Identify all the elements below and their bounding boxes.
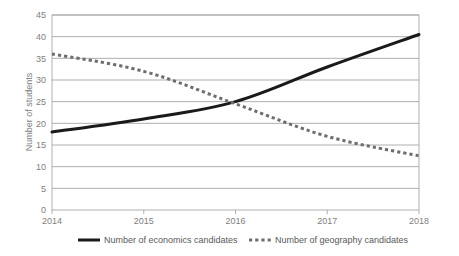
y-tick-label-45: 45 (36, 10, 46, 20)
legend-label-economics: Number of economics candidates (104, 235, 238, 245)
y-tick-label-0: 0 (41, 205, 46, 215)
x-tick-label-2017: 2017 (317, 216, 337, 226)
x-tick-label-2014: 2014 (42, 216, 62, 226)
legend-label-geography: Number of geography candidates (275, 235, 409, 245)
x-tick-label-2015: 2015 (134, 216, 154, 226)
y-tick-label-40: 40 (36, 32, 46, 42)
y-tick-label-5: 5 (41, 184, 46, 194)
chart-canvas: 051015202530354045 20142015201620172018 … (0, 0, 459, 256)
y-tick-label-35: 35 (36, 54, 46, 64)
x-tick-label-2018: 2018 (409, 216, 429, 226)
y-tick-label-15: 15 (36, 140, 46, 150)
y-tick-label-30: 30 (36, 75, 46, 85)
y-tick-label-25: 25 (36, 97, 46, 107)
y-axis-title: Number of students (24, 72, 34, 151)
y-tick-label-10: 10 (36, 162, 46, 172)
x-tick-label-2016: 2016 (225, 216, 245, 226)
y-tick-label-20: 20 (36, 119, 46, 129)
line-chart: 051015202530354045 20142015201620172018 … (0, 0, 459, 256)
